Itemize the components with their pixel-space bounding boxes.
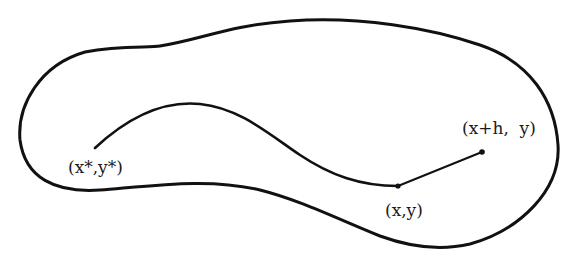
- point-current-dot: [395, 183, 400, 188]
- point-step-dot: [479, 149, 485, 155]
- step-segment: [398, 152, 482, 186]
- label-start-point: (x*,y*): [68, 157, 123, 177]
- label-current-point: (x,y): [385, 200, 423, 220]
- diagram-canvas: (x*,y*) (x,y) (x+h, y): [0, 0, 585, 262]
- label-step-point: (x+h, y): [462, 118, 536, 138]
- solution-curve: [95, 103, 398, 186]
